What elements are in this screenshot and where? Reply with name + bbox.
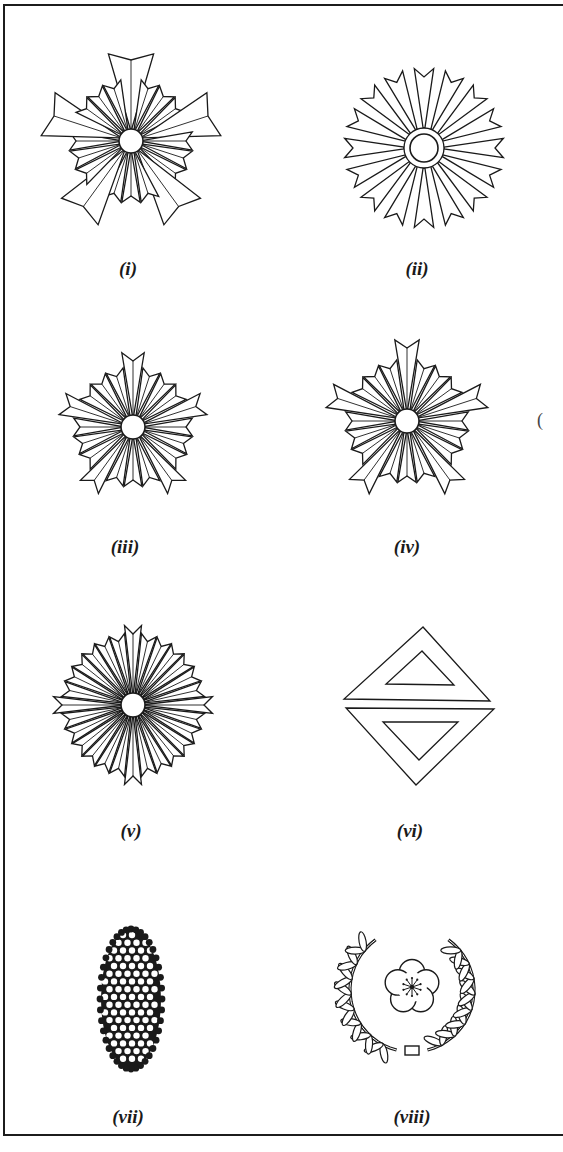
panel-label-vii: (vii) <box>112 1106 144 1128</box>
emblem-iii-star <box>59 353 207 494</box>
panel-label-v: (v) <box>120 820 141 842</box>
stray-parenthesis-mark: ( <box>537 410 543 431</box>
emblem-vi-diamond <box>344 627 494 785</box>
panel-label-i: (i) <box>119 258 137 280</box>
emblem-v-star <box>54 626 213 785</box>
panel-label-ii: (ii) <box>405 258 428 280</box>
panel-label-iv: (iv) <box>394 536 420 558</box>
panel-label-vi: (vi) <box>397 820 423 842</box>
emblem-viii-wreath <box>333 931 477 1063</box>
emblem-vii-dotted-oval <box>97 926 166 1073</box>
panel-label-viii: (viii) <box>394 1106 431 1128</box>
emblem-ii-star <box>345 69 504 228</box>
emblem-iv-star <box>326 340 488 494</box>
emblem-i-star <box>41 54 221 225</box>
panel-label-iii: (iii) <box>111 536 140 558</box>
